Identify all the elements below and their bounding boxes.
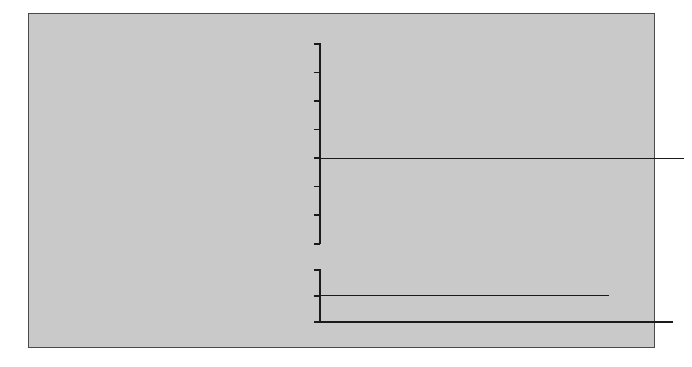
bottom-chart-svg xyxy=(256,14,656,349)
bottom-panel xyxy=(256,14,656,349)
box-text-panel xyxy=(51,28,259,45)
figure-frame xyxy=(28,13,655,348)
chart-area xyxy=(256,14,656,349)
box-title xyxy=(51,28,259,40)
